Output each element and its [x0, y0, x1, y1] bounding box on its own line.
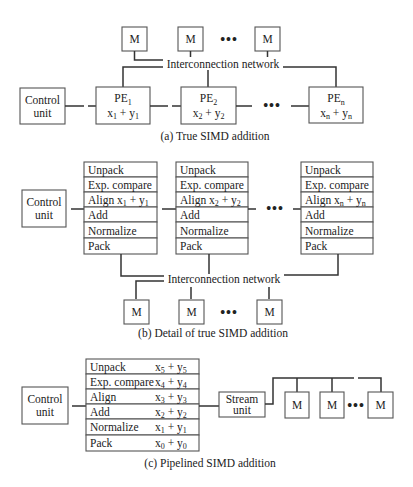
- memory-module: M: [255, 27, 280, 51]
- svg-text:unit: unit: [233, 404, 252, 416]
- control-unit: Control unit: [20, 88, 65, 124]
- stream-unit: Stream unit: [219, 392, 265, 417]
- svg-text:Exp. compare: Exp. compare: [90, 376, 154, 389]
- svg-text:Normalize: Normalize: [180, 225, 229, 237]
- memory-module: M: [257, 300, 282, 324]
- pipeline-stack: Unpack x5 + y5 Exp. compare x4 + y4 Alig…: [86, 359, 199, 451]
- memory-module: M: [179, 300, 204, 324]
- svg-text:unit: unit: [35, 209, 54, 221]
- ellipsis: •••: [347, 398, 365, 413]
- processing-element: PEn xn + yn: [309, 87, 363, 123]
- ellipsis: •••: [266, 201, 284, 216]
- svg-text:Unpack: Unpack: [90, 361, 126, 374]
- svg-text:M: M: [185, 33, 195, 45]
- caption-b: (b) Detail of true SIMD addition: [138, 327, 288, 340]
- svg-text:Pack: Pack: [88, 240, 111, 252]
- svg-text:xn + yn: xn + yn: [320, 107, 352, 121]
- caption-a: (a) True SIMD addition: [161, 130, 270, 143]
- memory-module: M: [124, 300, 149, 324]
- svg-text:M: M: [327, 399, 337, 411]
- svg-text:M: M: [131, 306, 141, 318]
- simd-diagram: M M ••• M Interconnection network Contro…: [0, 0, 413, 487]
- svg-text:unit: unit: [34, 107, 53, 119]
- svg-text:Control: Control: [25, 94, 60, 106]
- svg-text:x0 + y0: x0 + y0: [155, 437, 187, 451]
- svg-text:Control: Control: [26, 196, 61, 208]
- svg-text:M: M: [292, 399, 302, 411]
- pe-stage-stack: Unpack Exp. compare Align x2 + y2 Add No…: [176, 162, 248, 254]
- interconnection-network-label: Interconnection network: [167, 58, 280, 70]
- svg-text:Add: Add: [305, 209, 325, 221]
- part-c-pipelined-simd: Control unit Unpack x5 + y5 Exp. compare…: [22, 359, 393, 470]
- svg-text:Add: Add: [180, 209, 200, 221]
- processing-element: PE2 x2 + y2: [181, 87, 236, 124]
- svg-text:Pack: Pack: [305, 240, 328, 252]
- svg-text:Align x2 + y2: Align x2 + y2: [180, 194, 241, 208]
- ellipsis: •••: [220, 32, 238, 47]
- svg-text:unit: unit: [36, 406, 55, 418]
- processing-element: PE1 x1 + y1: [96, 87, 150, 124]
- memory-module: M: [122, 27, 147, 51]
- control-unit: Control unit: [22, 190, 66, 227]
- memory-module: M: [178, 27, 203, 51]
- caption-c: (c) Pipelined SIMD addition: [144, 457, 276, 470]
- svg-text:Unpack: Unpack: [305, 164, 341, 177]
- svg-text:Pack: Pack: [90, 437, 113, 449]
- part-a-true-simd: M M ••• M Interconnection network Contro…: [20, 27, 363, 143]
- svg-text:x2 + y2: x2 + y2: [193, 107, 225, 121]
- pe-stage-stack: Unpack Exp. compare Align x1 + y1 Add No…: [84, 162, 157, 254]
- svg-text:x1 + y1: x1 + y1: [155, 421, 187, 435]
- svg-text:Align: Align: [90, 391, 116, 404]
- svg-text:x4 + y4: x4 + y4: [155, 376, 187, 390]
- svg-text:M: M: [262, 33, 272, 45]
- svg-text:Normalize: Normalize: [90, 421, 139, 433]
- svg-text:x3 + y3: x3 + y3: [155, 391, 187, 405]
- svg-text:Unpack: Unpack: [180, 164, 216, 177]
- svg-text:x5 + y5: x5 + y5: [155, 361, 187, 375]
- part-b-detail-simd: Control unit Unpack Exp. compare Align x…: [22, 162, 373, 340]
- svg-text:M: M: [375, 399, 385, 411]
- svg-text:Exp. compare: Exp. compare: [305, 179, 369, 192]
- svg-text:Pack: Pack: [180, 240, 203, 252]
- svg-text:Normalize: Normalize: [305, 225, 354, 237]
- svg-text:Align x1 + y1: Align x1 + y1: [88, 194, 149, 208]
- control-unit: Control unit: [22, 387, 68, 424]
- memory-module: M: [368, 392, 393, 418]
- svg-text:Align xn + yn: Align xn + yn: [305, 194, 366, 208]
- svg-text:M: M: [129, 33, 139, 45]
- svg-text:Exp. compare: Exp. compare: [180, 179, 244, 192]
- interconnection-network-label: Interconnection network: [168, 273, 281, 285]
- svg-text:Exp. compare: Exp. compare: [88, 179, 152, 192]
- pe-stage-stack: Unpack Exp. compare Align xn + yn Add No…: [301, 162, 373, 254]
- ellipsis: •••: [220, 305, 238, 320]
- svg-text:M: M: [264, 306, 274, 318]
- ellipsis: •••: [263, 98, 281, 113]
- svg-text:Unpack: Unpack: [88, 164, 124, 177]
- svg-text:x2 + y2: x2 + y2: [155, 406, 187, 420]
- memory-module: M: [285, 392, 309, 418]
- svg-text:Add: Add: [88, 209, 108, 221]
- svg-text:Normalize: Normalize: [88, 225, 137, 237]
- svg-text:x1 + y1: x1 + y1: [107, 107, 139, 121]
- svg-text:Control: Control: [27, 393, 62, 405]
- memory-module: M: [320, 392, 344, 418]
- svg-text:M: M: [186, 306, 196, 318]
- svg-text:Add: Add: [90, 406, 110, 418]
